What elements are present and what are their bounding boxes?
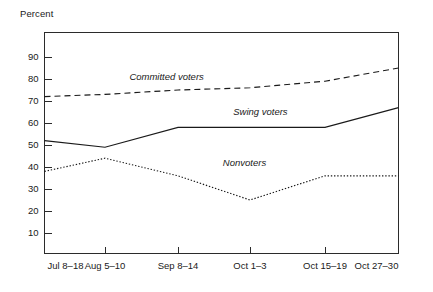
y-tick-label: 60 — [28, 117, 39, 128]
y-tick-label: 40 — [28, 161, 39, 172]
series-line-swing-voters — [45, 108, 399, 148]
x-tick-label: Sep 8–14 — [158, 260, 199, 271]
y-tick-label: 10 — [28, 227, 39, 238]
series-annotation-swing-voters: Swing voters — [233, 106, 288, 117]
series-line-nonvoters — [45, 158, 399, 200]
data-series-group — [45, 68, 399, 200]
y-axis-tick-labels: 908070605040302010 — [28, 51, 39, 238]
y-tick-label: 80 — [28, 73, 39, 84]
y-tick-label: 20 — [28, 205, 39, 216]
x-tick-label: Oct 27–30 — [355, 260, 399, 271]
y-tick-label: 90 — [28, 51, 39, 62]
series-annotations: Committed votersSwing votersNonvoters — [129, 71, 287, 168]
x-tick-label: Jul 8–18 — [48, 260, 84, 271]
y-axis-ticks — [45, 57, 52, 233]
x-axis-tick-labels: Jul 8–18Aug 5–10Sep 8–14Oct 1–3Oct 15–19… — [48, 260, 399, 271]
y-tick-label: 70 — [28, 95, 39, 106]
y-tick-label: 30 — [28, 183, 39, 194]
y-tick-label: 50 — [28, 139, 39, 150]
chart-container: Percent 908070605040302010 Jul 8–18Aug 5… — [0, 0, 433, 292]
series-annotation-nonvoters: Nonvoters — [223, 157, 267, 168]
series-line-committed-voters — [45, 68, 399, 97]
x-axis-ticks — [105, 247, 325, 254]
x-tick-label: Oct 1–3 — [233, 260, 266, 271]
series-annotation-committed-voters: Committed voters — [129, 71, 204, 82]
x-tick-label: Aug 5–10 — [85, 260, 126, 271]
plot-frame — [45, 33, 399, 254]
x-tick-label: Oct 15–19 — [303, 260, 347, 271]
line-chart-plot: 908070605040302010 Jul 8–18Aug 5–10Sep 8… — [0, 0, 433, 292]
